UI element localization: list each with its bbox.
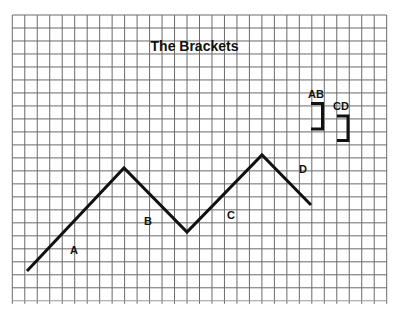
diagram-title: The Brackets <box>151 38 239 54</box>
brackets-diagram: The Brackets ABCD ABCD <box>0 0 399 313</box>
bracket-label: CD <box>333 100 349 112</box>
wave-label-a: A <box>70 244 78 256</box>
bracket-ab: AB <box>308 88 324 129</box>
bracket-shape <box>311 104 323 130</box>
graph-paper-grid <box>12 15 386 304</box>
bracket-label: AB <box>308 88 324 100</box>
bracket-legend: ABCD <box>308 88 349 141</box>
bracket-shape <box>337 116 348 141</box>
bracket-cd: CD <box>333 100 349 141</box>
wave-label-c: C <box>227 209 235 221</box>
wave-label-b: B <box>144 215 152 227</box>
wave-label-d: D <box>299 163 307 175</box>
